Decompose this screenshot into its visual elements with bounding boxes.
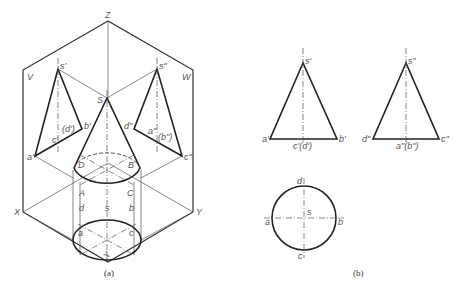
- label-side-s: s": [408, 56, 417, 66]
- proj-line-sw: [107, 69, 157, 98]
- label-top-s: s: [307, 207, 312, 217]
- label-top-c: c: [298, 251, 303, 261]
- proj-line-a: [35, 156, 73, 178]
- label-w-plane: W: [182, 72, 192, 82]
- label-s-w: s": [159, 61, 168, 71]
- label-a-w: a": [148, 126, 157, 136]
- label-b-h: b: [129, 203, 134, 213]
- label-B: B: [128, 160, 134, 170]
- proj-line-y: [141, 212, 193, 240]
- label-top-a: a: [265, 217, 270, 227]
- label-front-a: a': [262, 134, 269, 144]
- label-a-v: a': [27, 152, 34, 162]
- label-front-s: s': [305, 56, 312, 66]
- label-C: C: [127, 188, 134, 198]
- top-view-circle: [272, 186, 336, 250]
- caption-b: (b): [353, 268, 364, 278]
- label-front-b: b': [339, 134, 346, 144]
- label-a-h: a: [78, 228, 83, 238]
- w-projection-triangle: [134, 69, 182, 156]
- label-side-d: d": [362, 134, 371, 144]
- label-d-v: (d'): [62, 124, 75, 134]
- cone-projection-diagram: Z V W X Y Y s' s" S (d') b' c' a' d" a" …: [0, 0, 456, 287]
- label-side-ab: a"(b"): [396, 141, 418, 151]
- label-b-v: b': [84, 121, 91, 131]
- proj-line-x: [23, 212, 73, 240]
- label-c-w: c": [184, 152, 193, 162]
- label-x: X: [13, 207, 21, 217]
- label-s-v: s': [60, 61, 67, 71]
- label-front-cd: c'(d'): [293, 141, 312, 151]
- y-axis: [108, 163, 193, 212]
- figure-b: s' a' b' c'(d') s" d" c" a"(b") d c a b …: [262, 48, 450, 278]
- label-D: D: [78, 160, 85, 170]
- label-c-h: c: [129, 228, 134, 238]
- figure-a: Z V W X Y Y s' s" S (d') b' c' a' d" a" …: [13, 10, 203, 278]
- label-d-h: d: [79, 203, 85, 213]
- label-s-h: s: [105, 203, 110, 213]
- x-axis: [23, 163, 108, 212]
- label-side-c: c": [441, 134, 450, 144]
- label-v-plane: V: [27, 72, 34, 82]
- front-view-triangle: [270, 63, 337, 139]
- label-c-v: c': [52, 135, 59, 145]
- proj-line-sv: [58, 69, 107, 98]
- v-projection-triangle: [35, 69, 82, 156]
- caption-a: (a): [104, 268, 114, 278]
- proj-line-c: [141, 156, 182, 178]
- label-z: Z: [104, 10, 111, 20]
- label-A: A: [78, 188, 85, 198]
- label-d-w: d": [124, 121, 133, 131]
- label-top-d: d: [297, 176, 303, 186]
- label-y: Y: [196, 207, 203, 217]
- label-b-w: (b"): [158, 132, 172, 142]
- label-S: S: [97, 95, 103, 105]
- label-top-b: b: [338, 217, 343, 227]
